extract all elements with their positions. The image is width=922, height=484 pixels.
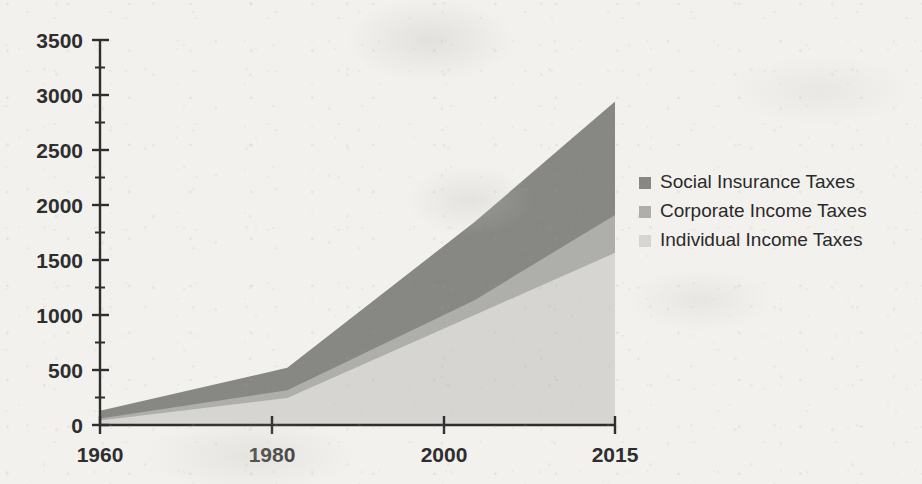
legend-item-social-insurance-taxes: Social Insurance Taxes	[639, 171, 855, 192]
legend-label-corporate-income-taxes: Corporate Income Taxes	[660, 200, 867, 221]
plot-area	[100, 102, 615, 425]
chart-legend: Social Insurance Taxes Corporate Income …	[639, 171, 867, 250]
chart-canvas: 3500 3000 2500 2000 1500 1000 500 0 1960…	[0, 0, 922, 484]
y-tick-label: 3500	[36, 29, 83, 52]
y-tick-label: 0	[71, 414, 83, 437]
legend-item-corporate-income-taxes: Corporate Income Taxes	[639, 200, 867, 221]
y-tick-label: 1500	[36, 249, 83, 272]
x-tick-label: 2015	[592, 443, 639, 466]
y-tick-label: 1000	[36, 304, 83, 327]
legend-swatch-social-insurance-taxes	[639, 177, 651, 189]
y-tick-label: 3000	[36, 84, 83, 107]
y-axis-tick-labels: 3500 3000 2500 2000 1500 1000 500 0	[36, 29, 83, 437]
legend-label-individual-income-taxes: Individual Income Taxes	[660, 229, 862, 250]
legend-label-social-insurance-taxes: Social Insurance Taxes	[660, 171, 855, 192]
legend-swatch-individual-income-taxes	[639, 235, 651, 247]
stacked-area-chart: 3500 3000 2500 2000 1500 1000 500 0 1960…	[0, 0, 922, 484]
legend-item-individual-income-taxes: Individual Income Taxes	[639, 229, 862, 250]
y-tick-label: 500	[48, 359, 83, 382]
x-tick-label: 1960	[77, 443, 124, 466]
legend-swatch-corporate-income-taxes	[639, 206, 651, 218]
x-tick-label: 1980	[249, 443, 296, 466]
y-tick-label: 2500	[36, 139, 83, 162]
y-tick-label: 2000	[36, 194, 83, 217]
x-tick-label: 2000	[421, 443, 468, 466]
x-axis-tick-labels: 1960 1980 2000 2015	[77, 443, 639, 466]
